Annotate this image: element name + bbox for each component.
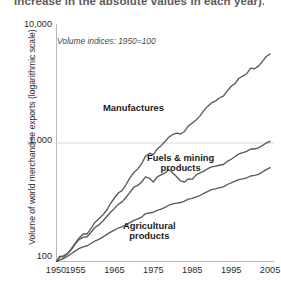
y-axis-tick-labels: 10,000 1,000 100 — [14, 0, 52, 295]
series-label-manufactures: Manufactures — [103, 103, 164, 113]
series-label-agricultural: Agricultural products — [123, 221, 176, 241]
series-label-text-line2: products — [147, 163, 214, 173]
x-axis-tick-labels: 1950195519651975198519952005 — [0, 265, 281, 281]
chart-figure: increase in the absolute values in each … — [0, 0, 281, 295]
chart-subtitle: Volume indices: 1950=100 — [57, 36, 156, 46]
y-tick-label: 100 — [37, 251, 52, 261]
x-tick-label: 2005 — [260, 265, 280, 275]
x-tick-label: 1950 — [46, 265, 66, 275]
x-tick-label: 1995 — [221, 265, 241, 275]
x-tick-label: 1955 — [65, 265, 85, 275]
y-tick-label: 10,000 — [24, 19, 52, 29]
x-tick-label: 1985 — [182, 265, 202, 275]
series-label-text: Manufactures — [103, 103, 164, 113]
series-label-fuels-mining: Fuels & mining products — [147, 153, 214, 173]
series-line-agricultural-products — [56, 168, 270, 262]
x-tick-label: 1975 — [143, 265, 163, 275]
series-label-text-line2: products — [123, 231, 176, 241]
x-tick-label: 1965 — [104, 265, 124, 275]
y-tick-label: 1,000 — [29, 135, 52, 145]
